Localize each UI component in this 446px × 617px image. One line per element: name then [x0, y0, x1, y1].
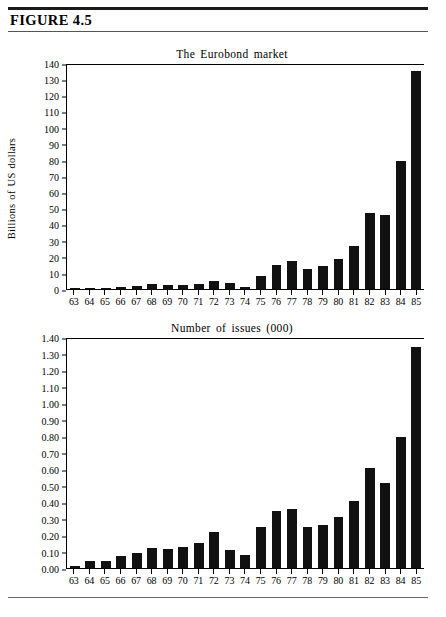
x-axis-tick: 69	[159, 290, 175, 307]
x-axis-tick-mark	[291, 569, 292, 574]
y-axis-tick-label: 140	[44, 59, 66, 70]
x-axis-tick-label: 76	[271, 296, 281, 307]
y-axis-tick-text: 0	[54, 285, 62, 296]
x-axis-tick-mark	[244, 569, 245, 574]
x-axis-tick-mark	[369, 290, 370, 295]
x-axis-tick-mark	[276, 290, 277, 295]
bar-column	[377, 65, 393, 289]
x-axis-tick-label: 63	[69, 296, 79, 307]
x-axis-tick-label: 76	[271, 575, 281, 586]
bar-column	[393, 65, 409, 289]
y-axis-tick-label: 90	[49, 139, 66, 150]
y-axis-tick-text: 70	[49, 172, 62, 183]
x-axis-ticks-top: 6364656667686970717273747576777879808182…	[66, 290, 424, 307]
bar-column	[222, 65, 238, 289]
x-axis-tick: 64	[82, 290, 98, 307]
y-axis-tick-text: 0.70	[42, 448, 63, 459]
x-axis-tick-mark	[322, 290, 323, 295]
bar-72	[209, 532, 219, 568]
x-axis-tick: 83	[377, 290, 393, 307]
x-axis-tick-mark	[307, 290, 308, 295]
header-rule-bottom	[8, 31, 428, 32]
bar-column	[253, 65, 269, 289]
bar-column	[315, 339, 331, 568]
chart-plot-area-bottom: 0.000.100.200.300.400.500.600.700.800.90…	[0, 338, 446, 591]
bar-77	[287, 509, 297, 568]
x-axis-tick-mark	[260, 569, 261, 574]
x-axis-tick: 68	[144, 569, 160, 586]
x-axis-tick: 83	[377, 569, 393, 586]
x-axis-tick: 77	[284, 569, 300, 586]
bar-column	[331, 339, 347, 568]
x-axis-tick: 63	[66, 569, 82, 586]
y-axis-tick-text: 110	[44, 107, 62, 118]
x-axis-tick-mark	[89, 569, 90, 574]
x-axis-tick-mark	[167, 569, 168, 574]
x-axis-tick: 78	[299, 290, 315, 307]
x-axis-tick-label: 63	[69, 575, 79, 586]
x-axis-tick-label: 64	[84, 575, 94, 586]
x-axis-tick-mark	[151, 290, 152, 295]
y-axis-tick-label: 30	[49, 236, 66, 247]
x-axis-tick-mark	[322, 569, 323, 574]
x-axis-tick-mark	[385, 569, 386, 574]
x-axis-tick: 82	[362, 569, 378, 586]
x-axis-tick: 80	[331, 569, 347, 586]
bar-column	[98, 65, 114, 289]
y-axis-tick-label: 0.90	[42, 415, 67, 426]
x-axis-tick: 76	[268, 569, 284, 586]
x-axis-tick: 80	[331, 290, 347, 307]
x-axis-tick-label: 74	[240, 575, 250, 586]
x-axis-tick-label: 72	[209, 575, 219, 586]
bar-75	[256, 276, 266, 289]
x-axis-tick-mark	[338, 290, 339, 295]
x-axis-tick: 71	[191, 290, 207, 307]
bar-63	[70, 288, 80, 289]
bar-64	[85, 561, 95, 568]
y-axis-tick-label: 0.40	[42, 498, 67, 509]
y-axis-tick-text: 1.10	[42, 382, 63, 393]
y-axis-tick-text: 0.90	[42, 415, 63, 426]
bar-series-bottom	[67, 339, 424, 568]
x-axis-tick-mark	[229, 290, 230, 295]
y-axis-tick-text: 30	[49, 236, 62, 247]
bar-column	[67, 65, 83, 289]
x-axis-tick: 68	[144, 290, 160, 307]
y-axis-tick-text: 1.20	[42, 366, 63, 377]
bar-column	[238, 65, 254, 289]
bar-73	[225, 550, 235, 568]
x-axis-tick-label: 82	[365, 296, 375, 307]
x-axis-tick-label: 70	[178, 575, 188, 586]
y-axis-tick-label: 0.80	[42, 432, 67, 443]
bar-75	[256, 527, 266, 568]
x-axis-tick-mark	[416, 290, 417, 295]
bar-column	[114, 65, 130, 289]
bar-67	[132, 286, 142, 289]
y-axis-tick-text: 0.80	[42, 432, 63, 443]
bar-column	[331, 65, 347, 289]
x-axis-tick-mark	[307, 569, 308, 574]
x-axis-tick-mark	[198, 290, 199, 295]
figure-rule-bottom	[8, 597, 428, 598]
x-axis-ticks-bottom: 6364656667686970717273747576777879808182…	[66, 569, 424, 586]
y-axis-tick-label: 110	[44, 107, 66, 118]
x-axis-tick-mark	[182, 569, 183, 574]
bar-78	[303, 269, 313, 289]
x-axis-tick-label: 65	[100, 575, 110, 586]
y-axis-tick-label: 130	[44, 75, 66, 86]
bar-74	[240, 287, 250, 289]
y-axis-tick-label: 20	[49, 252, 66, 263]
bar-84	[396, 161, 406, 289]
y-axis-tick-text: 10	[49, 268, 62, 279]
bar-76	[272, 265, 282, 289]
bar-column	[83, 339, 99, 568]
bar-series-top	[67, 65, 424, 289]
y-axis-tick-text: 120	[44, 91, 62, 102]
x-axis-tick-label: 83	[380, 296, 390, 307]
bar-column	[346, 339, 362, 568]
y-axis-tick-label: 60	[49, 188, 66, 199]
bar-81	[349, 246, 359, 289]
bar-column	[284, 339, 300, 568]
x-axis-tick-label: 66	[116, 296, 126, 307]
x-axis-tick-mark	[89, 290, 90, 295]
